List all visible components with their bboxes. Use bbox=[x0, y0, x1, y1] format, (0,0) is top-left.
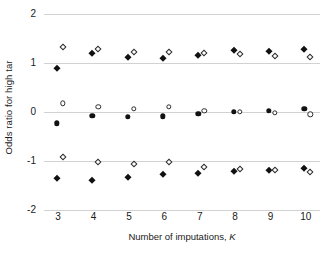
gridline bbox=[44, 161, 320, 162]
gridline bbox=[44, 210, 320, 211]
scatter-chart-figure: Odds ratio for high tar -2-1012 34567891… bbox=[0, 0, 328, 262]
x-axis-tick-label: 6 bbox=[162, 212, 168, 222]
x-axis-tick-label: 8 bbox=[232, 212, 238, 222]
plot-area bbox=[44, 14, 320, 210]
x-axis-tick-label: 5 bbox=[126, 212, 132, 222]
gridline bbox=[44, 112, 320, 113]
gridline bbox=[44, 63, 320, 64]
x-axis-tick-label: 7 bbox=[197, 212, 203, 222]
y-axis-title-text: Odds ratio for high tar bbox=[3, 60, 14, 154]
y-axis-tick-label: -2 bbox=[14, 205, 40, 215]
x-axis-tick-label: 9 bbox=[268, 212, 274, 222]
x-axis-title-text: Number of imputations, bbox=[128, 231, 226, 242]
y-axis-tick-label: 2 bbox=[14, 9, 40, 19]
gridline bbox=[44, 14, 320, 15]
y-axis-tick-label: 0 bbox=[14, 107, 40, 117]
x-axis-title-variable: K bbox=[229, 231, 235, 242]
y-axis-tick-label: -1 bbox=[14, 156, 40, 166]
x-axis-title: Number of imputations, K bbox=[44, 231, 320, 242]
x-axis-tick-label: 10 bbox=[300, 212, 311, 222]
x-axis-tick-label: 3 bbox=[55, 212, 61, 222]
x-axis-tick-labels: 345678910 bbox=[44, 212, 320, 228]
x-axis-tick-label: 4 bbox=[91, 212, 97, 222]
y-axis-tick-labels: -2-1012 bbox=[14, 0, 40, 262]
y-axis-tick-label: 1 bbox=[14, 58, 40, 68]
